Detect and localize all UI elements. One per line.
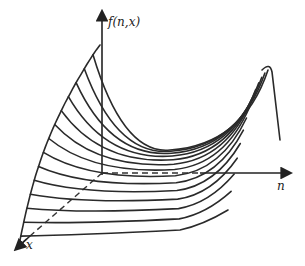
n-axis-label: n — [277, 179, 285, 193]
family-curve — [76, 77, 262, 153]
surface-diagram: f(n,x) n x — [0, 0, 305, 266]
family-curve — [24, 191, 231, 222]
family-curve — [34, 144, 240, 192]
x-axis-label: x — [26, 238, 33, 252]
f-axis-label: f(n,x) — [107, 15, 140, 29]
family-curve — [27, 174, 234, 211]
family-curve — [93, 55, 268, 150]
curve-family — [21, 55, 268, 236]
family-curve — [55, 98, 253, 165]
